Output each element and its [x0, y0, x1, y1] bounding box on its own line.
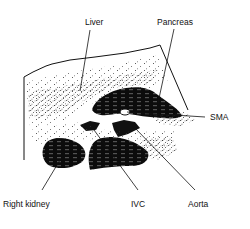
ultrasound-diagram: Liver Pancreas SMA Right kidney IVC Aort…	[0, 0, 250, 229]
right-kidney-label: Right kidney	[3, 200, 50, 209]
sma-label: SMA	[210, 113, 228, 122]
right-kidney-region	[43, 138, 86, 168]
pancreas-label: Pancreas	[157, 18, 193, 27]
aorta-label: Aorta	[188, 200, 208, 209]
liver-label: Liver	[85, 18, 103, 27]
ivc-label: IVC	[131, 200, 145, 209]
